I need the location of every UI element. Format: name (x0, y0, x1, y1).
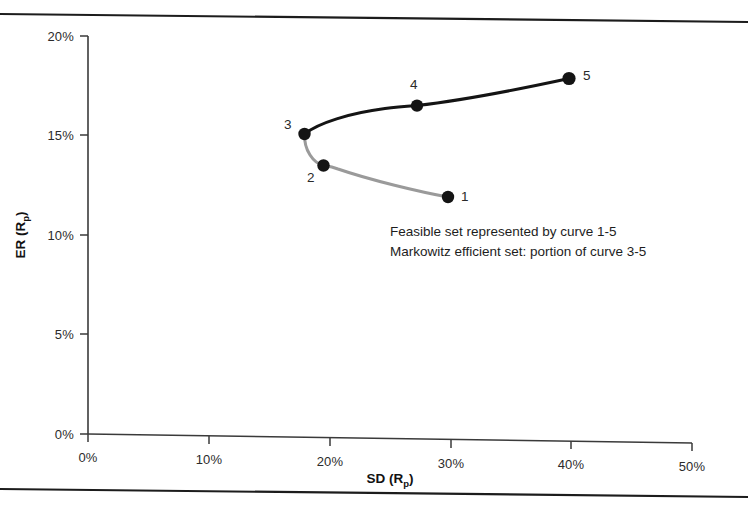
annotation-line-2: Markowitz efficient set: portion of curv… (390, 242, 646, 262)
data-point-5 (562, 72, 575, 85)
x-axis-line (88, 434, 692, 443)
x-tick-label-20: 20% (317, 454, 344, 469)
bottom-rule (0, 489, 748, 497)
y-tick-label-0: 0% (26, 427, 74, 442)
data-point-1 (442, 191, 454, 203)
data-point-3 (298, 128, 310, 140)
x-axis-title-main: SD (R (366, 471, 403, 486)
y-axis-title-subscript: p (20, 216, 31, 222)
x-tick-label-10: 10% (196, 452, 223, 467)
x-axis-title-tail: ) (409, 471, 414, 486)
top-rule (0, 14, 748, 22)
point-label-1: 1 (461, 189, 469, 204)
point-label-3: 3 (284, 117, 292, 132)
x-tick-label-30: 30% (438, 456, 465, 471)
point-label-2: 2 (307, 170, 315, 185)
annotation-line-1: Feasible set represented by curve 1-5 (390, 222, 646, 242)
chart-annotation: Feasible set represented by curve 1-5 Ma… (390, 222, 646, 262)
y-tick-label-10: 10% (26, 228, 74, 243)
efficient-frontier-figure: 20% 15% 10% 5% 0% 0% 10% 20% 30% 40% 50%… (0, 0, 748, 513)
x-axis-ticks (88, 434, 692, 451)
x-tick-label-0: 0% (78, 450, 97, 465)
x-tick-label-40: 40% (558, 457, 585, 472)
y-tick-label-5: 5% (26, 327, 74, 342)
data-point-2 (317, 159, 329, 171)
data-point-markers (298, 72, 575, 203)
y-axis-title: ER (Rp) (13, 211, 31, 258)
efficient-frontier-curve (305, 79, 570, 135)
point-label-4: 4 (410, 77, 418, 92)
data-point-4 (411, 99, 423, 111)
y-tick-label-15: 15% (26, 128, 74, 143)
x-tick-label-50: 50% (679, 459, 706, 474)
x-axis-title: SD (Rp) (366, 471, 413, 489)
y-axis-title-main: ER (R (13, 222, 28, 259)
y-axis-ticks (80, 36, 88, 434)
point-label-5: 5 (583, 68, 591, 83)
y-axis-title-tail: ) (13, 211, 28, 216)
y-tick-label-20: 20% (26, 29, 74, 44)
